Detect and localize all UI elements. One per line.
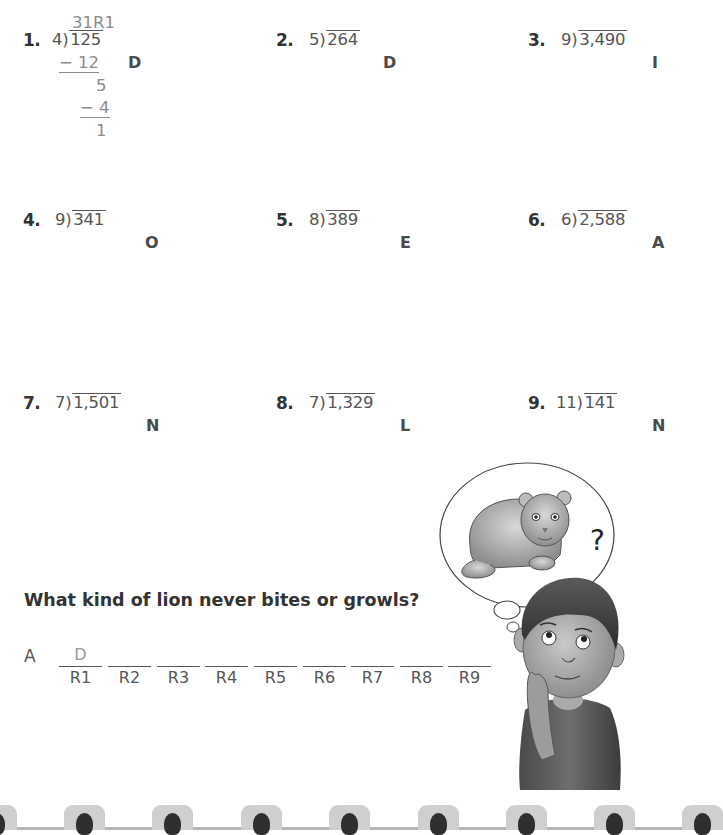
dividend: 2,588 (578, 210, 627, 229)
binder-hole-icon (594, 805, 635, 830)
code-letter: N (146, 416, 159, 435)
problem-number: 7. (23, 393, 40, 413)
problem-number: 8. (276, 393, 293, 413)
division-bracket: ) (65, 210, 71, 229)
dividend: 389 (326, 210, 360, 229)
dividend: 3,490 (578, 30, 627, 49)
divisor: 7 (309, 393, 319, 412)
binder-hole-icon (329, 805, 370, 830)
long-division: 9)341 (55, 210, 106, 229)
problem-number: 4. (23, 210, 40, 230)
blank-label: R6 (303, 668, 346, 687)
divisor: 5 (309, 30, 319, 49)
blank-label: R4 (205, 668, 248, 687)
divisor: 11 (556, 393, 576, 412)
binder-hole-icon (64, 805, 105, 830)
problem-number: 5. (276, 210, 293, 230)
long-division: 4)125 (52, 30, 103, 49)
divisor: 8 (309, 210, 319, 229)
answer-blank-r7[interactable]: R7 (351, 644, 394, 667)
division-bracket: ) (319, 393, 325, 412)
binder-hole-icon (241, 805, 282, 830)
dividend: 125 (69, 30, 103, 49)
division-bracket: ) (571, 30, 577, 49)
blank-label: R1 (59, 668, 102, 687)
riddle-question: What kind of lion never bites or growls? (24, 590, 419, 610)
answer-blank-r1[interactable]: DR1 (59, 644, 102, 667)
thinking-boy-illustration: ? (430, 450, 688, 790)
long-division: 7)1,329 (309, 393, 375, 412)
blank-label: R7 (351, 668, 394, 687)
division-bracket: ) (65, 393, 71, 412)
dividend: 141 (584, 393, 618, 412)
dividend: 1,329 (326, 393, 375, 412)
binder-hole-icon (152, 805, 193, 830)
division-bracket: ) (319, 30, 325, 49)
code-letter: L (400, 416, 410, 435)
code-letter: E (400, 233, 411, 252)
long-division: 6)2,588 (561, 210, 627, 229)
svg-text:?: ? (590, 524, 605, 557)
divisor: 9 (55, 210, 65, 229)
answer-blank-r2[interactable]: R2 (108, 644, 151, 667)
binder-hole-icon (418, 805, 459, 830)
code-letter: D (128, 53, 141, 72)
long-division: 11)141 (556, 393, 617, 412)
blank-label: R5 (254, 668, 297, 687)
dividend: 264 (326, 30, 360, 49)
long-division: 7)1,501 (55, 393, 121, 412)
divisor: 7 (55, 393, 65, 412)
binder-hole-icon (506, 805, 547, 830)
code-letter: D (383, 53, 396, 72)
binder-strip (0, 796, 688, 830)
division-bracket: ) (576, 393, 582, 412)
binder-hole-icon (682, 805, 723, 830)
answer-blank-r4[interactable]: R4 (205, 644, 248, 667)
answer-prefix: A (24, 646, 36, 666)
worked-step: 5 (96, 76, 107, 95)
problem-number: 1. (23, 30, 40, 50)
divisor: 4 (52, 30, 62, 49)
answer-blank-r5[interactable]: R5 (254, 644, 297, 667)
divisor: 9 (561, 30, 571, 49)
binder-hole-icon (0, 805, 17, 830)
answer-blank-r3[interactable]: R3 (157, 644, 200, 667)
code-letter: A (652, 233, 664, 252)
code-letter: N (652, 416, 665, 435)
division-bracket: ) (319, 210, 325, 229)
dividend: 341 (72, 210, 106, 229)
long-division: 5)264 (309, 30, 360, 49)
blank-label: R2 (108, 668, 151, 687)
problem-number: 6. (528, 210, 545, 230)
problem-number: 2. (276, 30, 293, 50)
worked-step: − 4 (80, 98, 110, 118)
code-letter: I (652, 53, 658, 72)
dividend: 1,501 (72, 393, 121, 412)
worked-step: 1 (96, 121, 107, 140)
lion-thought-bubble-icon: ? (430, 450, 688, 790)
long-division: 9)3,490 (561, 30, 627, 49)
division-bracket: ) (571, 210, 577, 229)
division-bracket: ) (62, 30, 68, 49)
blank-label: R3 (157, 668, 200, 687)
problem-number: 9. (528, 393, 545, 413)
divisor: 6 (561, 210, 571, 229)
answer-blank-r6[interactable]: R6 (303, 644, 346, 667)
code-letter: O (145, 233, 159, 252)
worked-step: − 12 (59, 53, 99, 73)
long-division: 8)389 (309, 210, 360, 229)
problem-number: 3. (528, 30, 545, 50)
